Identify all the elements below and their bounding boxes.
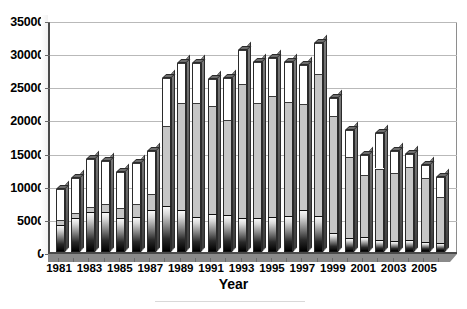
- bar-segment-bottom: [116, 218, 125, 252]
- bar-segment-middle: [223, 120, 232, 215]
- bar-segment-middle: [329, 116, 338, 233]
- bar-chart: 05000100001500020000250003000035000 1981…: [0, 0, 467, 309]
- bar-segment-middle: [375, 169, 384, 241]
- bar-segment-top: [268, 58, 277, 96]
- bar-segment-top: [147, 151, 156, 194]
- bar-side-face: [65, 181, 69, 252]
- bar-segment-top: [405, 154, 414, 167]
- x-axis-tick-label: 1993: [229, 262, 255, 274]
- bar-side-face: [217, 71, 221, 252]
- bar-column[interactable]: [132, 163, 141, 252]
- bar-side-face: [399, 143, 403, 252]
- bar-segment-bottom: [223, 215, 232, 252]
- x-axis-tick-label: 1999: [320, 262, 346, 274]
- y-axis-labels: 05000100001500020000250003000035000: [0, 22, 44, 254]
- bar-column[interactable]: [375, 133, 384, 252]
- bar-segment-middle: [390, 173, 399, 241]
- bar-column[interactable]: [421, 165, 430, 252]
- bar-segment-bottom: [132, 217, 141, 252]
- bar-segment-bottom: [71, 218, 80, 252]
- bar-segment-bottom: [101, 212, 110, 252]
- bar-column[interactable]: [329, 98, 338, 252]
- x-axis-labels: 1981198319851987198919911993199519971999…: [48, 258, 457, 274]
- bar-column[interactable]: [314, 43, 323, 252]
- bar-column[interactable]: [56, 189, 65, 252]
- bar-column[interactable]: [405, 154, 414, 252]
- x-axis-title: Year: [0, 276, 467, 292]
- x-axis-tick: [286, 258, 287, 262]
- bar-side-face: [186, 55, 190, 252]
- bar-side-face: [171, 70, 175, 252]
- bar-segment-top: [208, 79, 217, 106]
- x-axis-tick: [377, 258, 378, 262]
- bar-segment-middle: [421, 178, 430, 242]
- bar-segment-middle: [56, 220, 65, 225]
- bar-segment-bottom: [345, 238, 354, 252]
- bar-segment-bottom: [208, 214, 217, 252]
- bar-segment-top: [238, 50, 247, 84]
- bar-side-face: [414, 145, 418, 252]
- bar-segment-top: [329, 98, 338, 116]
- bar-segment-top: [436, 177, 445, 197]
- bar-column[interactable]: [390, 151, 399, 252]
- bar-column[interactable]: [223, 78, 232, 252]
- bar-column[interactable]: [71, 178, 80, 252]
- bar-segment-middle: [284, 102, 293, 216]
- x-axis-tick: [164, 258, 165, 262]
- bar-side-face: [338, 90, 342, 252]
- bar-segment-bottom: [405, 240, 414, 252]
- bar-segment-top: [71, 178, 80, 213]
- bar-column[interactable]: [116, 172, 125, 252]
- bar-column[interactable]: [360, 155, 369, 252]
- x-axis-tick-label: 1983: [77, 262, 103, 274]
- bar-segment-bottom: [253, 218, 262, 252]
- bar-column[interactable]: [436, 177, 445, 252]
- bar-segment-bottom: [436, 243, 445, 252]
- x-axis-tick-label: 1987: [137, 262, 163, 274]
- bar-segment-bottom: [299, 210, 308, 252]
- x-axis-tick-label: 1985: [107, 262, 133, 274]
- bar-side-face: [354, 122, 358, 252]
- bar-column[interactable]: [345, 130, 354, 252]
- bar-segment-bottom: [421, 242, 430, 252]
- bar-column[interactable]: [162, 78, 171, 252]
- bar-column[interactable]: [147, 151, 156, 252]
- bar-side-face: [262, 53, 266, 252]
- bar-segment-top: [86, 159, 95, 207]
- bar-side-face: [384, 125, 388, 252]
- x-axis-tick: [225, 258, 226, 262]
- bar-segment-top: [101, 161, 110, 205]
- bar-side-face: [156, 142, 160, 252]
- bar-column[interactable]: [268, 58, 277, 252]
- bar-column[interactable]: [192, 63, 201, 252]
- chart-depth-left-wall: [41, 15, 48, 254]
- x-axis-tick: [104, 258, 105, 262]
- bar-segment-middle: [192, 103, 201, 217]
- y-axis-tick-label: 35000: [10, 15, 44, 29]
- bar-side-face: [293, 53, 297, 252]
- bar-column[interactable]: [208, 79, 217, 252]
- bar-segment-bottom: [162, 206, 171, 252]
- bar-side-face: [430, 157, 434, 252]
- bar-segment-bottom: [147, 210, 156, 252]
- bar-column[interactable]: [299, 65, 308, 252]
- y-axis-tick-label: 5000: [17, 214, 44, 228]
- x-axis-tick-label: 1991: [198, 262, 224, 274]
- bar-segment-bottom: [192, 217, 201, 252]
- bar-segment-bottom: [177, 210, 186, 252]
- bar-column[interactable]: [177, 63, 186, 252]
- bar-segment-top: [314, 43, 323, 74]
- bar-segment-middle: [162, 126, 171, 206]
- x-axis-tick-label: 2005: [411, 262, 437, 274]
- bar-segment-top: [421, 165, 430, 178]
- bar-column[interactable]: [284, 62, 293, 252]
- bar-column[interactable]: [253, 62, 262, 252]
- bar-side-face: [80, 169, 84, 252]
- bar-segment-top: [299, 65, 308, 104]
- bar-segment-middle: [345, 157, 354, 239]
- bar-segment-middle: [360, 175, 369, 237]
- y-axis-tick-label: 10000: [10, 181, 44, 195]
- bar-column[interactable]: [86, 159, 95, 252]
- bar-column[interactable]: [101, 161, 110, 252]
- bar-column[interactable]: [238, 50, 247, 252]
